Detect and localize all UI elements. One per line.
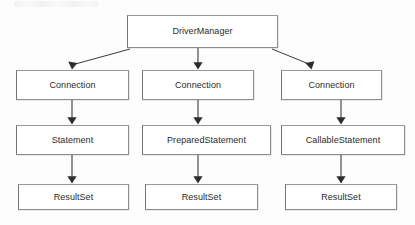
scan-artifact-strip [14, 1, 98, 7]
node-connection-right: Connection [281, 70, 382, 100]
node-label: ResultSet [321, 193, 360, 202]
node-statement: Statement [16, 125, 129, 155]
node-driver-manager: DriverManager [127, 15, 278, 48]
node-label: PreparedStatement [167, 136, 246, 145]
edge-callable-statement-to-result-set-right [336, 155, 345, 184]
edge-drivermanager-to-connection-mid [193, 48, 202, 70]
edge-prepared-statement-to-result-set-mid [193, 155, 202, 184]
node-label: CallableStatement [306, 136, 380, 145]
node-result-set-right: ResultSet [285, 184, 397, 210]
node-label: DriverManager [172, 27, 232, 36]
edge-drivermanager-to-connection-right [272, 49, 314, 70]
edge-connection-right-to-callable-statement [336, 100, 345, 125]
node-result-set-left: ResultSet [18, 184, 129, 210]
edge-connection-left-to-statement [67, 100, 76, 125]
node-connection-mid: Connection [142, 70, 254, 100]
edge-connection-mid-to-prepared-statement [193, 100, 202, 125]
node-label: Statement [52, 136, 93, 145]
node-label: ResultSet [54, 193, 93, 202]
node-connection-left: Connection [16, 70, 129, 100]
node-label: Connection [175, 81, 221, 90]
node-label: Connection [49, 81, 95, 90]
node-callable-statement: CallableStatement [281, 125, 405, 155]
edge-statement-to-result-set-left [67, 155, 76, 184]
node-label: ResultSet [182, 193, 221, 202]
edge-drivermanager-to-connection-left [68, 49, 130, 70]
node-result-set-mid: ResultSet [145, 184, 258, 210]
node-prepared-statement: PreparedStatement [142, 125, 271, 155]
jdbc-architecture-diagram: DriverManager Connection Connection Conn… [0, 0, 415, 225]
node-label: Connection [308, 81, 354, 90]
